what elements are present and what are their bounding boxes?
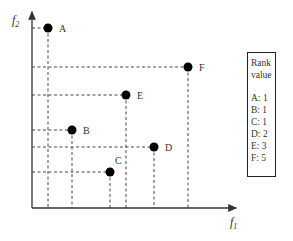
point-label: B [83,125,90,136]
point-e [122,91,131,100]
point-c [106,168,115,177]
point-label: D [165,142,172,153]
legend-entry: C: 1 [251,116,275,128]
legend-entry: E: 3 [251,140,275,152]
point-label: C [115,155,122,166]
point-d [150,143,159,152]
point-label: A [59,23,67,34]
legend-title-line2: value [251,69,275,81]
rank-value-legend: Rank value A: 1 B: 1 C: 1 D: 2 E: 3 F: 5 [247,52,276,177]
points: ABCDEF [44,23,206,177]
point-a [44,24,53,33]
legend-entry: F: 5 [251,152,275,164]
x-axis-label: f1 [230,215,237,231]
point-b [68,126,77,135]
legend-title-line1: Rank [251,57,275,69]
point-f [184,63,193,72]
legend-entry: A: 1 [251,92,275,104]
dashed-guides [32,28,188,208]
legend-entry: D: 2 [251,128,275,140]
y-axis-label: f2 [12,13,19,29]
legend-entry: B: 1 [251,104,275,116]
point-label: E [137,90,143,101]
point-label: F [199,62,205,73]
